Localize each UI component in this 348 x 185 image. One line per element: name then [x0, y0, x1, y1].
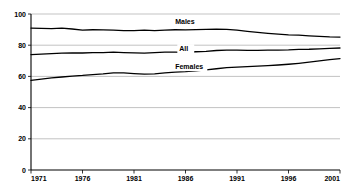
y-tick-label-60: 60 [18, 73, 26, 80]
y-tick-label-20: 20 [18, 135, 26, 142]
x-tick-label-2001: 2001 [324, 175, 340, 182]
series-inline-labels: MalesAllFemales [173, 18, 207, 71]
x-tick-label-1991: 1991 [229, 175, 245, 182]
y-tick-label-80: 80 [18, 42, 26, 49]
chart-canvas: 020406080100 197119761981198619911996200… [0, 0, 348, 185]
gridlines [28, 14, 340, 170]
x-tick-label-1986: 1986 [178, 175, 194, 182]
x-tick-label-1971: 1971 [31, 175, 47, 182]
series-label-females: Females [175, 63, 203, 70]
series-line-males [31, 28, 340, 37]
y-tick-label-0: 0 [22, 167, 26, 174]
y-tick-label-100: 100 [14, 11, 26, 18]
x-tick-label-1981: 1981 [126, 175, 142, 182]
y-axis-tick-labels: 020406080100 [14, 11, 26, 174]
series-label-males: Males [175, 18, 195, 25]
series-lines [31, 28, 340, 80]
x-axis-tick-labels: 1971197619811986199119962001 [31, 175, 340, 182]
x-tick-label-1976: 1976 [75, 175, 91, 182]
y-tick-label-40: 40 [18, 104, 26, 111]
series-label-all: All [179, 45, 188, 52]
line-chart: 020406080100 197119761981198619911996200… [0, 0, 348, 185]
x-tick-label-1996: 1996 [281, 175, 297, 182]
